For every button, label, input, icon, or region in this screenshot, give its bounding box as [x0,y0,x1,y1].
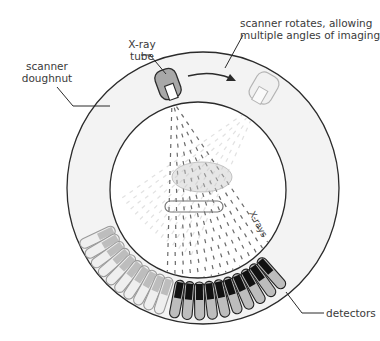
xray-tube-label: X-ray tube [120,38,164,62]
detectors-leader [286,292,324,313]
rotation-note-line1: scanner rotates, allowing [240,17,380,29]
scanner-doughnut-label-line1: scanner [14,60,80,72]
xray-tube-label-line2: tube [120,50,164,62]
rotation-note-line2: multiple angles of imaging [240,29,380,41]
scanner-doughnut-label: scanner doughnut [14,60,80,84]
scanner-doughnut-label-line2: doughnut [14,72,80,84]
patient-body [172,162,232,192]
rotation-note-label: scanner rotates, allowing multiple angle… [240,17,380,41]
detectors-label: detectors [326,307,376,319]
xray-tube-label-line1: X-ray [120,38,164,50]
